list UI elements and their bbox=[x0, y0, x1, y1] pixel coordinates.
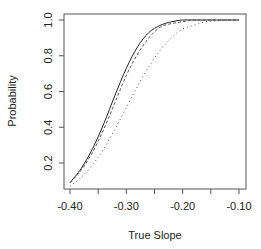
x-tick-label: -0.30 bbox=[114, 200, 139, 212]
plot-frame bbox=[64, 14, 246, 189]
y-tick-label: 0.8 bbox=[42, 48, 54, 63]
y-axis: 0.20.40.60.81.0 bbox=[42, 12, 64, 170]
x-tick-label: -0.10 bbox=[226, 200, 251, 212]
y-tick-label: 1.0 bbox=[42, 12, 54, 27]
series-line-dotted bbox=[70, 20, 239, 186]
x-axis: -0.40-0.30-0.20-0.10 bbox=[57, 189, 251, 212]
probability-chart: -0.40-0.30-0.20-0.10 0.20.40.60.81.0 Tru… bbox=[0, 0, 261, 249]
y-axis-title: Probability bbox=[6, 75, 18, 127]
x-tick-label: -0.20 bbox=[170, 200, 195, 212]
y-tick-label: 0.4 bbox=[42, 120, 54, 135]
series-lines bbox=[70, 20, 239, 186]
series-line-solid bbox=[70, 20, 239, 183]
y-tick-label: 0.6 bbox=[42, 84, 54, 99]
x-tick-label: -0.40 bbox=[57, 200, 82, 212]
y-tick-label: 0.2 bbox=[42, 155, 54, 170]
x-axis-title: True Slope bbox=[128, 229, 181, 241]
series-line-dashed bbox=[70, 20, 239, 183]
